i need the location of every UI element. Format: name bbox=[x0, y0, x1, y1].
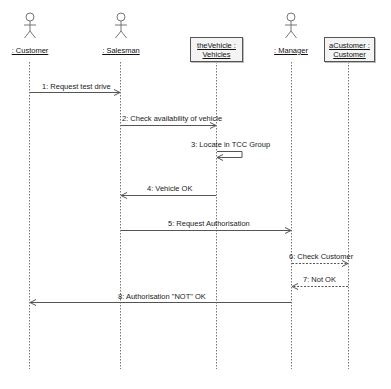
participant-acustomer-name: aCustomer : bbox=[325, 41, 374, 50]
message-7-label: 7: Not OK bbox=[303, 275, 336, 284]
message-8-label: 8: Authorisation "NOT" OK bbox=[118, 292, 206, 301]
message-5-label: 5: Request Authorisation bbox=[168, 219, 250, 228]
message-2-label: 2: Check availability of vehicle bbox=[122, 114, 222, 123]
participant-customer-label: : Customer bbox=[12, 46, 49, 55]
message-6-label: 6: Check Customer bbox=[289, 252, 353, 261]
actor-icon-salesman bbox=[115, 13, 127, 38]
message-3-arrow bbox=[217, 152, 242, 158]
message-1-label: 1: Request test drive bbox=[42, 82, 111, 91]
message-3-label: 3: Locate in TCC Group bbox=[191, 140, 270, 149]
message-4-label: 4: Vehicle OK bbox=[147, 184, 192, 193]
participant-acustomer-box: aCustomer : Customer bbox=[324, 37, 375, 62]
participant-vehicle-box: theVehicle : Vehicles bbox=[190, 37, 243, 62]
actor-icon-customer bbox=[24, 13, 36, 38]
actor-icon-manager bbox=[285, 13, 297, 38]
participant-acustomer-class: Customer bbox=[325, 50, 374, 59]
sequence-diagram: : Customer : Salesman theVehicle : Vehic… bbox=[0, 0, 391, 389]
participant-vehicle-class: Vehicles bbox=[191, 50, 242, 59]
participant-salesman-label: : Salesman bbox=[102, 46, 140, 55]
participant-manager-label: : Manager bbox=[274, 46, 308, 55]
participant-vehicle-name: theVehicle : bbox=[191, 41, 242, 50]
